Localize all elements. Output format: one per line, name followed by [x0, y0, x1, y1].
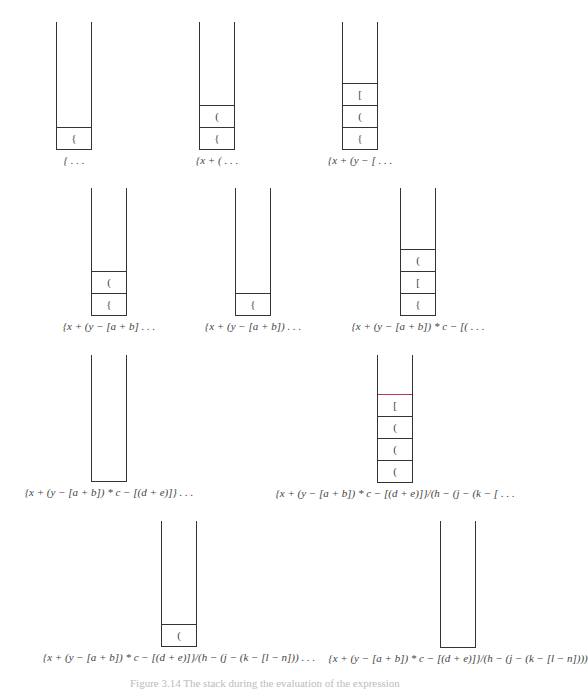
expression-label: {x + (y − [a + b]) * c − [( . . .: [351, 320, 484, 332]
stack-cell: (: [378, 416, 412, 438]
expression-label: {x + (y − [a + b]) * c − [(d + e)]} . . …: [25, 486, 194, 498]
stack-7: [91, 355, 127, 482]
stack-4: {(: [91, 188, 127, 316]
stack-9: (: [161, 521, 197, 647]
expression-label: {x + (y − [a + b]) * c − [(d + e)]}/(h −…: [275, 487, 514, 499]
stack-cell: (: [92, 271, 126, 293]
stack-cell: (: [343, 105, 377, 127]
expression-label: {x + (y − [ . . .: [328, 154, 392, 166]
stack-8: ((([: [377, 355, 413, 483]
expression-label: {x + (y − [a + b]) * c − [(d + e)]}/(h −…: [328, 652, 588, 664]
expression-label: { . . .: [64, 154, 85, 166]
stack-cell: (: [401, 249, 435, 271]
stack-cell: {: [343, 127, 377, 149]
expression-label: {x + (y − [a + b]) * c − [(d + e)]}/(h −…: [43, 651, 315, 663]
stack-cell: {: [200, 127, 234, 149]
stack-1: {: [56, 22, 92, 150]
stack-cell: [: [343, 83, 377, 105]
stack-cell: {: [92, 293, 126, 315]
expression-label: {x + (y − [a + b]) . . .: [205, 320, 301, 332]
stack-6: {[(: [400, 188, 436, 316]
stack-cell: [: [378, 394, 412, 416]
expression-label: {x + ( . . .: [196, 154, 238, 166]
stack-cell: {: [57, 127, 91, 149]
stack-cell: {: [401, 293, 435, 315]
stack-cell: (: [200, 105, 234, 127]
expression-label: {x + (y − [a + b] . . .: [63, 320, 156, 332]
stack-cell: (: [378, 438, 412, 460]
stack-cell: (: [162, 624, 196, 646]
stack-cell: (: [378, 460, 412, 482]
stack-2: {(: [199, 22, 235, 150]
figure-caption: Figure 3.14 The stack during the evaluat…: [130, 677, 400, 689]
stack-cell: [: [401, 271, 435, 293]
stack-5: {: [235, 188, 271, 316]
stack-3: {([: [342, 22, 378, 150]
stack-10: [440, 521, 476, 648]
stack-cell: {: [236, 293, 270, 315]
